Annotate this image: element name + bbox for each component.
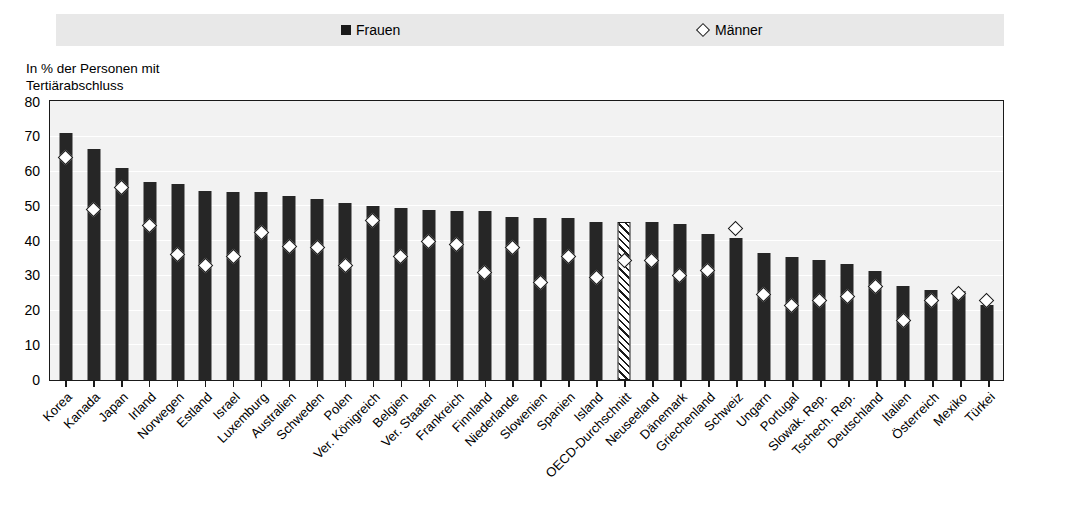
x-tick-mark (848, 381, 850, 387)
x-tick-cell (163, 381, 191, 388)
x-label-cell: Österreich (918, 388, 946, 488)
x-tick-cell (107, 381, 135, 388)
bar-group[interactable] (973, 101, 1001, 380)
bar-group[interactable] (638, 101, 666, 380)
bar-frauen[interactable] (478, 211, 491, 380)
x-tick-cell (275, 381, 303, 388)
bar-group[interactable] (750, 101, 778, 380)
bar-group[interactable] (359, 101, 387, 380)
x-tick-mark (512, 381, 514, 387)
bar-frauen[interactable] (980, 305, 993, 380)
bar-frauen[interactable] (199, 191, 212, 380)
x-tick-mark (457, 381, 459, 387)
bar-group[interactable] (945, 101, 973, 380)
bar-frauen[interactable] (171, 184, 184, 380)
bar-group[interactable] (164, 101, 192, 380)
x-label-cell: Kanada (79, 388, 107, 488)
bar-frauen[interactable] (143, 182, 156, 380)
bar-group[interactable] (136, 101, 164, 380)
bar-frauen[interactable] (729, 238, 742, 380)
bar-group[interactable] (275, 101, 303, 380)
bar-group[interactable] (499, 101, 527, 380)
bar-frauen[interactable] (366, 206, 379, 380)
bar-frauen[interactable] (115, 168, 128, 380)
x-tick-cell (834, 381, 862, 388)
plot-area (49, 100, 1004, 381)
y-tick-label: 70 (24, 128, 40, 144)
bar-frauen[interactable] (227, 192, 240, 380)
bar-frauen[interactable] (534, 218, 547, 380)
x-label-cell: Griechenland (694, 388, 722, 488)
bar-frauen[interactable] (255, 192, 268, 380)
bar-group[interactable] (554, 101, 582, 380)
x-tick-mark (988, 381, 990, 387)
filled-square-icon (341, 25, 351, 35)
x-tick-mark (568, 381, 570, 387)
bar-frauen[interactable] (645, 222, 658, 380)
bar-group[interactable] (917, 101, 945, 380)
bar-group[interactable] (108, 101, 136, 380)
x-tick-cell (694, 381, 722, 388)
x-tick-mark (820, 381, 822, 387)
bar-frauen[interactable] (590, 222, 603, 380)
bar-group[interactable] (610, 101, 638, 380)
x-tick-mark (792, 381, 794, 387)
x-tick-cell (387, 381, 415, 388)
bar-group[interactable] (443, 101, 471, 380)
x-tick-mark (317, 381, 319, 387)
bar-group[interactable] (331, 101, 359, 380)
x-tick-mark (764, 381, 766, 387)
bar-series-container (50, 101, 1003, 380)
bar-frauen[interactable] (701, 234, 714, 380)
bar-group[interactable] (303, 101, 331, 380)
bar-group[interactable] (778, 101, 806, 380)
bar-frauen[interactable] (841, 264, 854, 380)
bar-group[interactable] (694, 101, 722, 380)
bar-frauen[interactable] (59, 133, 72, 380)
bar-frauen[interactable] (952, 291, 965, 380)
bar-group[interactable] (387, 101, 415, 380)
bar-frauen[interactable] (394, 208, 407, 380)
bar-group[interactable] (861, 101, 889, 380)
x-tick-mark (624, 381, 626, 387)
bar-group[interactable] (80, 101, 108, 380)
bar-frauen[interactable] (813, 260, 826, 380)
bar-group[interactable] (805, 101, 833, 380)
bar-group[interactable] (219, 101, 247, 380)
bar-frauen[interactable] (673, 224, 686, 380)
bar-group[interactable] (415, 101, 443, 380)
y-tick-label: 20 (24, 302, 40, 318)
bar-frauen[interactable] (785, 257, 798, 380)
x-tick-cell (610, 381, 638, 388)
x-tick-mark (932, 381, 934, 387)
bar-group[interactable] (666, 101, 694, 380)
bar-group[interactable] (582, 101, 610, 380)
bar-frauen[interactable] (311, 199, 324, 380)
bar-group[interactable] (52, 101, 80, 380)
x-tick-mark (149, 381, 151, 387)
x-label-cell: Irland (135, 388, 163, 488)
x-tick-mark (261, 381, 263, 387)
bar-frauen[interactable] (757, 253, 770, 380)
bar-frauen[interactable] (339, 203, 352, 380)
bar-group[interactable] (833, 101, 861, 380)
bar-frauen[interactable] (283, 196, 296, 380)
bar-frauen[interactable] (897, 286, 910, 380)
bar-frauen[interactable] (87, 149, 100, 380)
bar-group[interactable] (247, 101, 275, 380)
bar-group[interactable] (471, 101, 499, 380)
y-tick-label: 60 (24, 163, 40, 179)
y-tick-label: 40 (24, 233, 40, 249)
bar-group[interactable] (192, 101, 220, 380)
bar-frauen[interactable] (618, 222, 631, 380)
bar-group[interactable] (526, 101, 554, 380)
x-tick-mark (680, 381, 682, 387)
x-label-cell: Deutschland (862, 388, 890, 488)
marker-maenner[interactable] (728, 221, 744, 237)
bar-group[interactable] (722, 101, 750, 380)
x-label-cell: Korea (51, 388, 79, 488)
bar-group[interactable] (889, 101, 917, 380)
bar-frauen[interactable] (562, 218, 575, 380)
legend-label-frauen: Frauen (356, 22, 400, 38)
x-tick-mark (876, 381, 878, 387)
